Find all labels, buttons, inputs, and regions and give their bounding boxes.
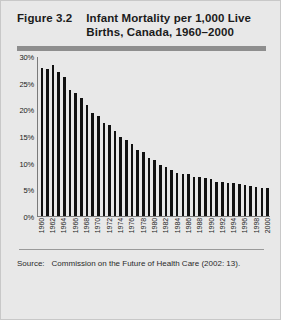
bar-slot xyxy=(265,57,271,216)
bar xyxy=(210,179,213,216)
bar xyxy=(97,116,100,216)
x-axis-tick-label: 2000 xyxy=(264,218,271,233)
bar xyxy=(114,131,117,216)
bar xyxy=(187,174,190,216)
bar xyxy=(198,177,201,216)
bar xyxy=(159,165,162,216)
bar xyxy=(52,65,55,216)
bar xyxy=(193,177,196,216)
y-axis-tick-label: 30% xyxy=(20,53,34,62)
bar xyxy=(91,113,94,216)
bar xyxy=(182,174,185,216)
bar xyxy=(215,182,218,216)
bar xyxy=(261,188,264,216)
y-axis-tick-label: 15% xyxy=(20,133,34,142)
y-axis-tick-label: 20% xyxy=(20,106,34,115)
bar xyxy=(221,182,224,216)
y-axis-tick-label: 10% xyxy=(20,159,34,168)
bar xyxy=(136,150,139,216)
x-axis: 1960196219641966196819701972197419761978… xyxy=(38,217,270,243)
x-axis-slot: 2000 xyxy=(264,217,270,243)
bar xyxy=(69,90,72,216)
bar-chart: 0%5%10%15%20%25%30% 19601962196419661968… xyxy=(9,57,270,243)
y-axis-tick-label: 0% xyxy=(24,213,34,222)
bar xyxy=(232,183,235,216)
bar xyxy=(108,125,111,216)
bar xyxy=(148,158,151,216)
bar xyxy=(249,186,252,216)
plot-wrapper: 0%5%10%15%20%25%30% 19601962196419661968… xyxy=(9,57,270,243)
bar xyxy=(41,68,44,216)
figure-number: Figure 3.2 xyxy=(17,11,72,25)
y-axis: 0%5%10%15%20%25%30% xyxy=(9,57,37,217)
bar xyxy=(86,105,89,216)
title-divider-rule xyxy=(17,46,266,51)
bar xyxy=(57,72,60,216)
figure-card: Figure 3.2 Infant Mortality per 1,000 Li… xyxy=(0,0,281,320)
bar xyxy=(204,178,207,216)
bar xyxy=(255,187,258,216)
plot-column: 1960196219641966196819701972197419761978… xyxy=(37,57,270,243)
bar xyxy=(125,140,128,216)
bar xyxy=(153,160,156,216)
bar-series xyxy=(39,57,270,216)
source-label: Source: xyxy=(17,258,45,269)
bar xyxy=(103,123,106,216)
bar xyxy=(142,152,145,216)
figure-header: Figure 3.2 Infant Mortality per 1,000 Li… xyxy=(1,1,280,39)
y-axis-tick-label: 25% xyxy=(20,79,34,88)
bar xyxy=(63,77,66,216)
bar xyxy=(119,137,122,217)
bar xyxy=(46,69,49,216)
y-axis-tick-label: 5% xyxy=(24,186,34,195)
bar xyxy=(238,184,241,216)
bar xyxy=(266,188,269,216)
bar xyxy=(244,185,247,216)
bar xyxy=(170,170,173,216)
bar xyxy=(176,173,179,216)
source-note: Source: Commission on the Future of Heal… xyxy=(1,250,280,269)
bar xyxy=(74,93,77,216)
bar xyxy=(131,144,134,216)
bar xyxy=(227,183,230,216)
bar xyxy=(80,98,83,216)
plot-area xyxy=(37,57,270,217)
figure-title: Infant Mortality per 1,000 Live Births, … xyxy=(86,11,266,39)
source-text: Commission on the Future of Health Care … xyxy=(52,258,241,269)
bar xyxy=(165,167,168,216)
